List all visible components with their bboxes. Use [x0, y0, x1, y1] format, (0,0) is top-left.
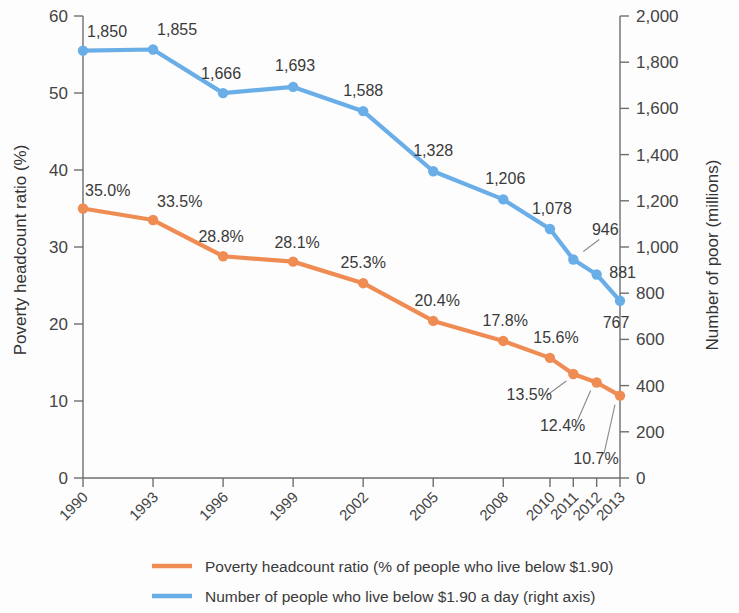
data-point	[615, 390, 625, 400]
data-point	[498, 336, 508, 346]
data-label: 28.1%	[274, 234, 319, 251]
data-point	[288, 82, 298, 92]
left-axis-ticks: 0102030405060	[49, 7, 83, 488]
right-axis-title: Number of poor (millions)	[703, 160, 722, 351]
x-tick-label: 2008	[476, 488, 512, 524]
dual-axis-line-chart: Poverty headcount ratio (%) Number of po…	[0, 0, 739, 613]
data-point	[545, 224, 555, 234]
data-label: 1,855	[157, 21, 197, 38]
label-leader-line	[583, 239, 599, 251]
data-label: 1,328	[413, 142, 453, 159]
right-tick-label: 2,000	[636, 7, 679, 26]
data-label: 1,850	[87, 23, 127, 40]
data-point	[218, 88, 228, 98]
poverty-ratio-markers	[78, 203, 625, 401]
right-tick-label: 600	[636, 330, 664, 349]
left-tick-label: 60	[49, 7, 68, 26]
data-point	[358, 278, 368, 288]
data-point	[288, 256, 298, 266]
right-tick-label: 1,600	[636, 99, 679, 118]
right-tick-label: 200	[636, 423, 664, 442]
poverty-ratio-line	[83, 209, 620, 396]
data-point	[358, 106, 368, 116]
data-label: 1,588	[343, 82, 383, 99]
right-tick-label: 400	[636, 377, 664, 396]
data-label: 10.7%	[573, 450, 618, 467]
data-label: 1,666	[201, 65, 241, 82]
data-label: 767	[603, 314, 630, 331]
data-point	[148, 44, 158, 54]
left-tick-label: 40	[49, 161, 68, 180]
right-tick-label: 800	[636, 284, 664, 303]
data-point	[545, 353, 555, 363]
left-tick-label: 50	[49, 84, 68, 103]
right-tick-label: 1,200	[636, 192, 679, 211]
data-label: 12.4%	[540, 417, 585, 434]
data-label: 15.6%	[533, 329, 578, 346]
legend: Poverty headcount ratio (% of people who…	[152, 558, 613, 605]
x-tick-label: 2002	[336, 488, 372, 524]
data-label: 946	[592, 221, 619, 238]
data-label: 1,693	[275, 57, 315, 74]
x-tick-label: 1993	[126, 488, 162, 524]
data-label: 33.5%	[157, 193, 202, 210]
left-tick-label: 30	[49, 238, 68, 257]
left-tick-label: 0	[59, 469, 68, 488]
data-label: 13.5%	[507, 386, 552, 403]
data-label: 35.0%	[85, 182, 130, 199]
legend-label-number-of-poor: Number of people who live below $1.90 a …	[205, 588, 595, 605]
data-label: 25.3%	[340, 254, 385, 271]
data-point	[428, 166, 438, 176]
data-point	[568, 369, 578, 379]
data-point	[591, 377, 601, 387]
data-label: 1,206	[485, 170, 525, 187]
data-point	[591, 269, 601, 279]
right-axis-ticks: 02004006008001,0001,2001,4001,6001,8002,…	[620, 7, 679, 488]
data-point	[428, 316, 438, 326]
left-axis-title: Poverty headcount ratio (%)	[11, 145, 30, 356]
data-point	[148, 215, 158, 225]
x-tick-label: 2005	[406, 488, 442, 524]
data-label: 1,078	[532, 200, 572, 217]
data-label: 17.8%	[483, 312, 528, 329]
data-label: 28.8%	[198, 228, 243, 245]
right-tick-label: 1,800	[636, 53, 679, 72]
data-point	[218, 251, 228, 261]
data-label: 881	[609, 264, 636, 281]
right-tick-label: 0	[636, 469, 645, 488]
left-tick-label: 10	[49, 392, 68, 411]
data-label: 20.4%	[415, 292, 460, 309]
x-tick-label: 1996	[196, 488, 232, 524]
data-point	[498, 194, 508, 204]
data-point	[615, 296, 625, 306]
right-tick-label: 1,000	[636, 238, 679, 257]
legend-label-poverty-ratio: Poverty headcount ratio (% of people who…	[205, 558, 613, 575]
data-point	[78, 45, 88, 55]
chart-container: Poverty headcount ratio (%) Number of po…	[0, 0, 739, 613]
x-tick-label: 1999	[266, 488, 302, 524]
data-point	[78, 203, 88, 213]
left-tick-label: 20	[49, 315, 68, 334]
label-leader-line	[604, 405, 615, 454]
x-axis-ticks: 1990199319961999200220052008201020112012…	[56, 478, 629, 524]
data-point	[568, 254, 578, 264]
right-tick-label: 1,400	[636, 146, 679, 165]
x-tick-label: 1990	[56, 488, 92, 524]
